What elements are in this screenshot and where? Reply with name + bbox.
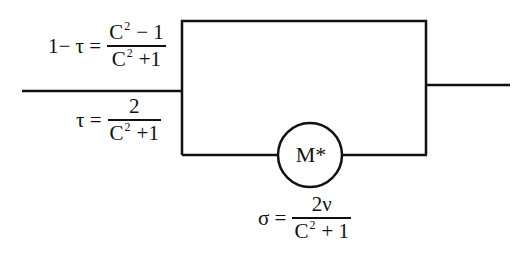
upper-numerator: C2− 1 xyxy=(107,22,166,43)
lower-fraction: 2 C2+1 xyxy=(108,96,161,144)
lower-branch-equation: τ = 2 C2+1 xyxy=(76,96,161,144)
lower-numerator: 2 xyxy=(127,96,142,117)
sigma-denominator: C2+ 1 xyxy=(292,221,351,242)
sigma-lhs: σ = xyxy=(258,208,286,229)
upper-denominator: C2+1 xyxy=(110,49,163,70)
denominator-rest: +1 xyxy=(137,123,159,144)
upper-lhs: 1− τ = xyxy=(48,36,101,57)
m-star-label: M* xyxy=(288,142,334,168)
upper-fraction: C2− 1 C2+1 xyxy=(107,22,166,70)
denominator-rest: + 1 xyxy=(321,221,349,242)
numerator-exponent: 2 xyxy=(124,20,130,32)
denominator-exponent: 2 xyxy=(309,219,315,231)
sigma-equation: σ = 2ν C2+ 1 xyxy=(258,194,351,242)
numerator-base: C xyxy=(109,22,123,43)
sigma-numerator: 2ν xyxy=(310,194,334,215)
numerator-rest: − 1 xyxy=(136,22,164,43)
denominator-exponent: 2 xyxy=(125,121,131,133)
lower-denominator: C2+1 xyxy=(108,123,161,144)
denominator-rest: +1 xyxy=(139,49,161,70)
sigma-fraction: 2ν C2+ 1 xyxy=(292,194,351,242)
lower-lhs: τ = xyxy=(76,110,102,131)
denominator-base: C xyxy=(112,49,126,70)
denominator-base: C xyxy=(294,221,308,242)
denominator-exponent: 2 xyxy=(127,47,133,59)
denominator-base: C xyxy=(110,123,124,144)
upper-branch-equation: 1− τ = C2− 1 C2+1 xyxy=(48,22,166,70)
